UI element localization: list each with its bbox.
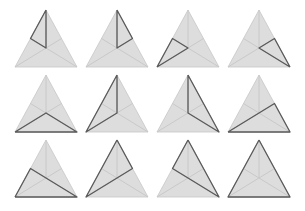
triangle-panel-7 <box>157 75 219 132</box>
triangle-panel-8 <box>228 75 290 132</box>
triangle-panel-6 <box>86 75 148 132</box>
triangle-panel-10 <box>86 140 148 197</box>
triangle-panel-11 <box>157 140 219 197</box>
triangle-panel-12 <box>228 140 290 197</box>
triangle-panel-1 <box>15 10 77 67</box>
triangle-grid-figure <box>0 0 305 211</box>
triangle-panel-2 <box>86 10 148 67</box>
triangle-panel-9 <box>15 140 77 197</box>
triangle-panel-5 <box>15 75 77 132</box>
triangle-panel-4 <box>228 10 290 67</box>
triangle-panel-3 <box>157 10 219 67</box>
triangle-grid-svg <box>0 0 305 211</box>
